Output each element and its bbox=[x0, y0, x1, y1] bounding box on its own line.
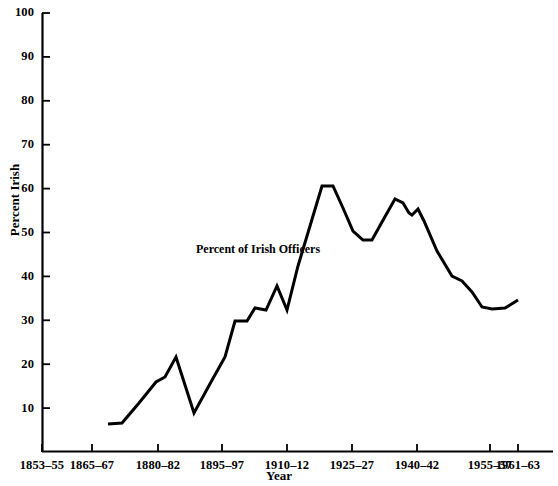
y-tick-label: 40 bbox=[0, 269, 34, 284]
y-tick-label: 90 bbox=[0, 49, 34, 64]
series-line-percent-of-irish-officers bbox=[108, 186, 518, 424]
y-tick-label: 80 bbox=[0, 93, 34, 108]
y-tick-label: 100 bbox=[0, 5, 34, 20]
y-tick-label: 10 bbox=[0, 401, 34, 416]
chart-container: 100 90 80 70 60 50 40 30 20 10 1853–55 1… bbox=[0, 0, 558, 486]
y-axis-title: Percent Irish bbox=[7, 155, 23, 245]
y-tick-label: 30 bbox=[0, 313, 34, 328]
x-axis-title: Year bbox=[0, 468, 558, 484]
y-tick-label: 70 bbox=[0, 137, 34, 152]
series-annotation-label: Percent of Irish Officers bbox=[196, 242, 320, 257]
y-tick-label: 20 bbox=[0, 357, 34, 372]
